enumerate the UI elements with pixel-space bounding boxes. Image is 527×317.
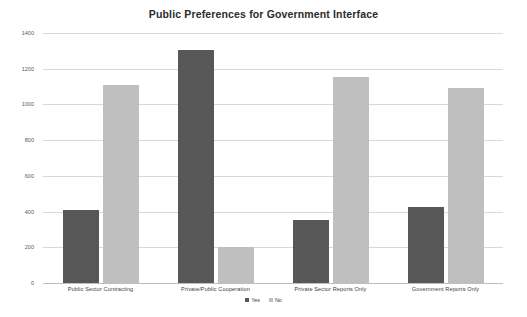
bar-chart: Public Preferences for Government Interf… [0, 0, 527, 317]
x-axis-labels: Public Sector ContractingPrivate/Public … [43, 286, 503, 292]
legend-label: No [275, 297, 282, 303]
y-axis-tick-label: 0 [31, 280, 34, 286]
y-axis-tick-label: 1200 [22, 66, 34, 72]
y-axis-tick-label: 1000 [22, 101, 34, 107]
x-axis-category-label: Private Sector Reports Only [273, 286, 388, 292]
legend-item-yes[interactable]: Yes [245, 297, 260, 303]
bar-no[interactable] [103, 85, 139, 283]
bar-no[interactable] [448, 88, 484, 283]
chart-legend: YesNo [0, 297, 527, 303]
legend-item-no[interactable]: No [269, 297, 282, 303]
bar-group [388, 33, 503, 283]
chart-title: Public Preferences for Government Interf… [0, 8, 527, 20]
bar-group [273, 33, 388, 283]
plot-area [43, 33, 503, 283]
x-axis-category-label: Public Sector Contracting [43, 286, 158, 292]
bar-yes[interactable] [178, 50, 214, 283]
bar-no[interactable] [333, 77, 369, 283]
y-axis-tick-label: 800 [25, 137, 34, 143]
legend-swatch-icon [245, 298, 249, 302]
y-axis-tick-label: 600 [25, 173, 34, 179]
y-axis-tick-label: 1400 [22, 30, 34, 36]
bar-no[interactable] [218, 247, 254, 283]
bar-group [158, 33, 273, 283]
bar-yes[interactable] [293, 220, 329, 283]
y-axis: 0200400600800100012001400 [0, 0, 38, 317]
bar-groups [43, 33, 503, 283]
y-axis-tick-label: 400 [25, 209, 34, 215]
bar-group [43, 33, 158, 283]
y-axis-tick-label: 200 [25, 244, 34, 250]
x-axis-category-label: Government Reports Only [388, 286, 503, 292]
x-axis-category-label: Private/Public Cooperation [158, 286, 273, 292]
legend-swatch-icon [269, 298, 273, 302]
legend-label: Yes [251, 297, 260, 303]
bar-yes[interactable] [63, 210, 99, 283]
bar-yes[interactable] [408, 207, 444, 283]
gridline [43, 283, 503, 284]
